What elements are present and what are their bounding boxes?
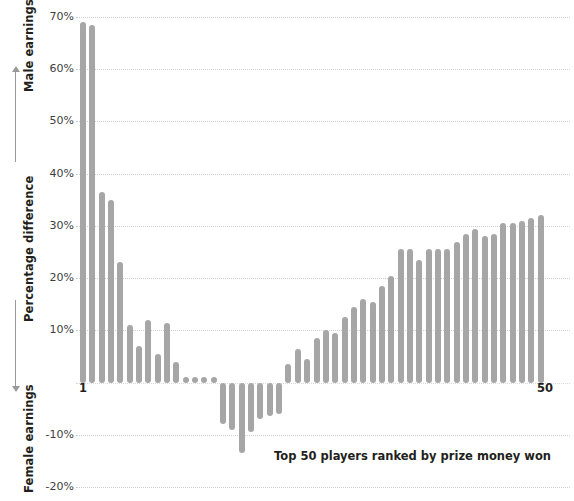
bar	[472, 229, 478, 383]
y-tick-40: 40%	[30, 168, 74, 179]
bar	[510, 223, 516, 382]
bar	[398, 249, 404, 382]
y-tick-neg10: -10%	[30, 429, 74, 440]
bar	[538, 215, 544, 382]
bar	[229, 383, 235, 430]
bar	[388, 276, 394, 383]
bar	[220, 383, 226, 425]
bar	[99, 192, 105, 383]
bar	[482, 236, 488, 382]
bar	[155, 354, 161, 383]
bar	[89, 25, 95, 383]
bar	[463, 234, 469, 383]
bar	[295, 349, 301, 383]
bar	[80, 22, 86, 382]
bar	[239, 383, 245, 454]
bar	[332, 333, 338, 383]
bar-series	[76, 0, 570, 501]
bar	[248, 383, 254, 433]
chart-root: Male earnings Percentage difference Fema…	[0, 0, 574, 501]
y-tick-20: 20%	[30, 272, 74, 283]
bar	[285, 364, 291, 382]
bar	[342, 317, 348, 382]
x-axis-title: Top 50 players ranked by prize money won	[274, 449, 551, 463]
bar	[173, 362, 179, 383]
bar	[426, 249, 432, 382]
bar	[108, 200, 114, 383]
bar	[314, 338, 320, 382]
y-tick-neg20: -20%	[30, 481, 74, 492]
bar	[323, 330, 329, 382]
bar	[500, 223, 506, 382]
bar	[211, 377, 217, 382]
bar	[257, 383, 263, 420]
bar	[192, 377, 198, 382]
y-axis-tick-labels: 70%60%50%40%30%20%10%-10%-20%	[0, 0, 74, 501]
bar	[127, 325, 133, 382]
y-tick-30: 30%	[30, 220, 74, 231]
bar	[136, 346, 142, 383]
bar	[370, 302, 376, 383]
y-tick-10: 10%	[30, 324, 74, 335]
bar	[267, 383, 273, 417]
bar	[435, 249, 441, 382]
bar	[164, 323, 170, 383]
bar	[444, 249, 450, 382]
bar	[454, 242, 460, 383]
bar	[201, 377, 207, 382]
bar	[304, 359, 310, 383]
bar	[276, 383, 282, 414]
x-axis-tick-first: 1	[79, 381, 87, 395]
y-tick-60: 60%	[30, 63, 74, 74]
bar	[407, 249, 413, 382]
x-axis-tick-last: 50	[537, 381, 553, 395]
bar	[117, 262, 123, 382]
bar	[491, 234, 497, 383]
bar	[183, 377, 189, 382]
bar	[528, 218, 534, 383]
plot-area	[76, 0, 570, 501]
bar	[360, 299, 366, 383]
bar	[416, 260, 422, 383]
y-tick-50: 50%	[30, 115, 74, 126]
y-tick-70: 70%	[30, 11, 74, 22]
bar	[145, 320, 151, 383]
bar	[379, 286, 385, 383]
bar	[519, 221, 525, 383]
bar	[351, 307, 357, 383]
